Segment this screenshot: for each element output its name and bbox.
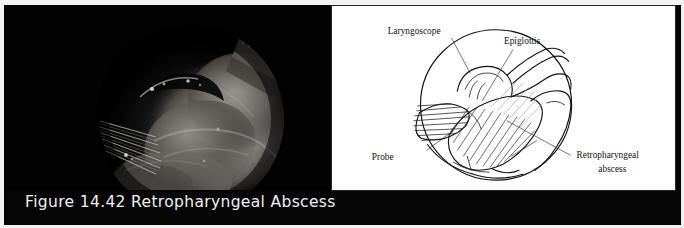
diagram-panel: Laryngoscope Epiglottis Probe Retrophary… [331, 5, 676, 191]
endoscopic-photo [4, 5, 331, 190]
label-epiglottis: Epiglottis [504, 36, 541, 46]
label-probe: Probe [372, 152, 394, 162]
figure-root: Figure 14.42 Retropharyngeal Abscess [0, 0, 684, 228]
endoscopic-photo-canvas [4, 5, 331, 190]
figure-caption: Figure 14.42 Retropharyngeal Abscess [25, 193, 336, 211]
label-abscess-line2: abscess [598, 164, 626, 174]
label-laryngoscope: Laryngoscope [388, 26, 441, 36]
diagram-canvas: Laryngoscope Epiglottis Probe Retrophary… [332, 6, 675, 190]
label-abscess-line1: Retropharyngeal [577, 150, 640, 160]
